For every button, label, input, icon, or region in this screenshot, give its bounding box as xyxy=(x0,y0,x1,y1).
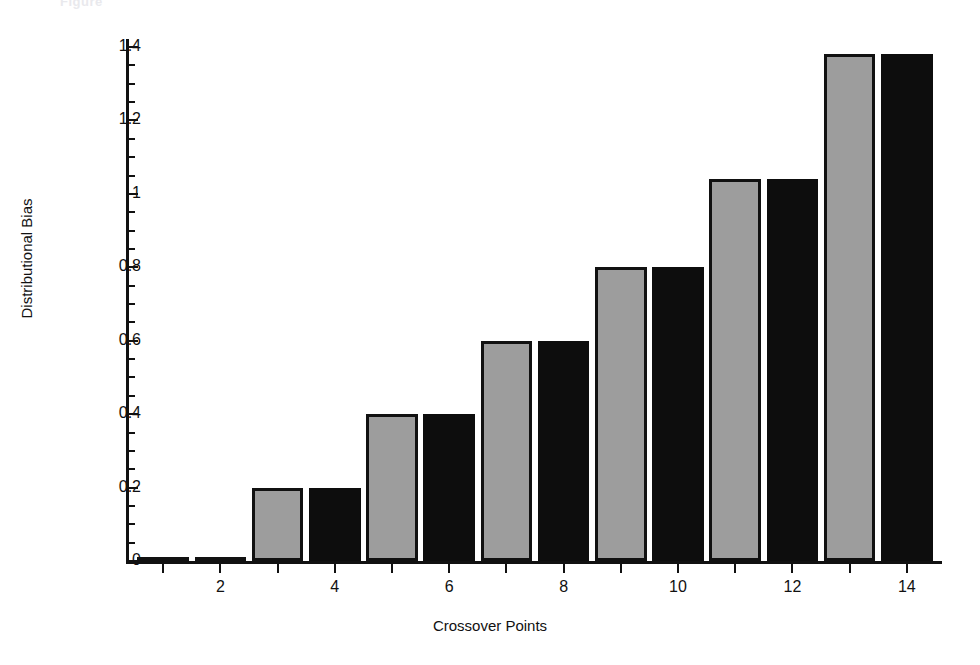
bar-layer xyxy=(126,30,944,564)
x-tick-label: 12 xyxy=(772,578,812,596)
x-tick xyxy=(563,564,565,573)
x-tick-label: 4 xyxy=(315,578,355,596)
bar-14 xyxy=(881,54,932,561)
y-axis-title: Distributional Bias xyxy=(18,149,35,369)
x-tick xyxy=(906,564,908,573)
x-tick xyxy=(219,564,221,573)
x-tick xyxy=(849,564,851,573)
x-axis-title: Crossover Points xyxy=(0,617,980,634)
bar-8 xyxy=(538,341,589,561)
x-tick xyxy=(791,564,793,573)
bar-7 xyxy=(481,341,532,561)
bar-12 xyxy=(767,179,818,561)
x-tick xyxy=(677,564,679,573)
x-tick xyxy=(162,564,164,573)
figure-canvas: Figure Distributional Bias 00.20.40.60.8… xyxy=(0,0,980,665)
x-tick xyxy=(334,564,336,573)
x-tick-label: 8 xyxy=(544,578,584,596)
x-tick-label: 2 xyxy=(200,578,240,596)
x-tick-label: 14 xyxy=(887,578,927,596)
plot-area: 00.20.40.60.811.21.4 2468101214 xyxy=(126,30,944,565)
bar-5 xyxy=(366,414,417,561)
bar-1 xyxy=(137,557,188,561)
x-tick-label: 10 xyxy=(658,578,698,596)
bar-10 xyxy=(652,267,703,561)
bar-6 xyxy=(423,414,474,561)
x-tick xyxy=(391,564,393,573)
bar-9 xyxy=(595,267,646,561)
x-tick xyxy=(448,564,450,573)
cropped-header-text: Figure xyxy=(60,0,103,9)
x-tick xyxy=(620,564,622,573)
bar-11 xyxy=(709,179,760,561)
x-tick xyxy=(734,564,736,573)
x-tick xyxy=(277,564,279,573)
bar-4 xyxy=(309,488,360,561)
bar-2 xyxy=(195,557,246,561)
bar-13 xyxy=(824,54,875,561)
x-tick xyxy=(505,564,507,573)
bar-3 xyxy=(252,488,303,561)
x-tick-label: 6 xyxy=(429,578,469,596)
